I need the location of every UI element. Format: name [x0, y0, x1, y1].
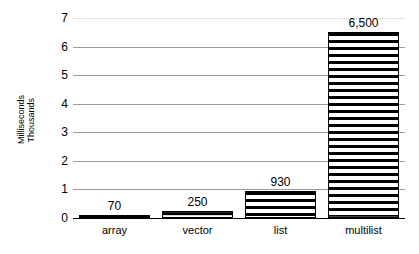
bar-array[interactable]	[79, 215, 150, 218]
y-axis-title: Milliseconds Thousands	[8, 60, 44, 180]
bar-vector[interactable]	[162, 211, 233, 218]
y-axis-title-line-2: Thousands	[26, 98, 36, 143]
plot-area: 702509306,500	[73, 18, 405, 218]
y-tick-label-4: 4	[61, 98, 68, 110]
bar-slot-array: 70	[79, 18, 150, 218]
y-tick-label-6: 6	[61, 41, 68, 53]
bar-value-label-vector: 250	[187, 196, 207, 208]
x-tick-label-vector: vector	[183, 224, 213, 237]
bar-slot-multilist: 6,500	[328, 18, 399, 218]
y-tick-label-1: 1	[61, 183, 68, 195]
x-tick-label-list: list	[274, 224, 287, 237]
y-tick-label-2: 2	[61, 155, 68, 167]
bar-list[interactable]	[245, 191, 316, 218]
y-axis-title-line-1: Milliseconds	[16, 95, 26, 144]
y-tick-label-7: 7	[61, 12, 68, 24]
bar-chart-figure: Milliseconds Thousands 01234567 70250930…	[0, 0, 419, 254]
x-tick-label-multilist: multilist	[345, 224, 382, 237]
x-axis-tick-labels: arrayvectorlistmultilist	[73, 224, 405, 244]
bar-slot-list: 930	[245, 18, 316, 218]
bar-value-label-multilist: 6,500	[348, 17, 378, 29]
y-tick-label-5: 5	[61, 69, 68, 81]
bar-multilist[interactable]	[328, 32, 399, 218]
gridline-0	[73, 218, 405, 219]
bar-value-label-array: 70	[108, 200, 121, 212]
bar-value-label-list: 930	[270, 176, 290, 188]
y-axis-tick-labels: 01234567	[48, 18, 68, 218]
y-tick-label-3: 3	[61, 126, 68, 138]
bar-slot-vector: 250	[162, 18, 233, 218]
x-tick-label-array: array	[102, 224, 127, 237]
y-tick-label-0: 0	[61, 212, 68, 224]
